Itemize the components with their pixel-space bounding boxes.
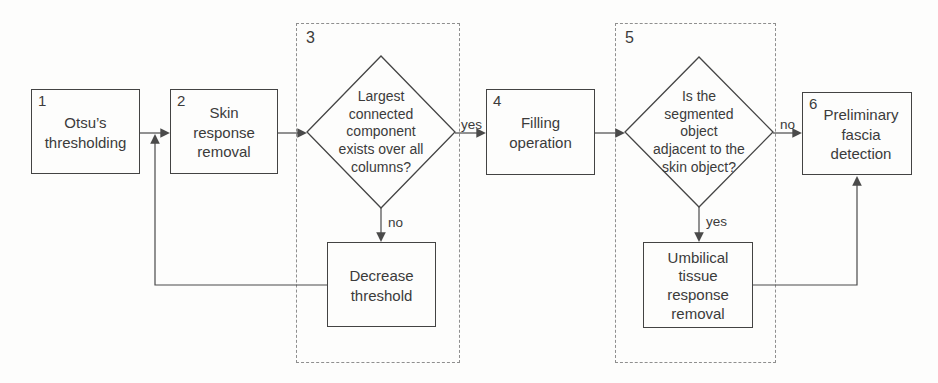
- decision3-yes-label: yes: [461, 117, 482, 132]
- node-2-number: 2: [177, 92, 185, 109]
- node-4-number: 4: [493, 92, 501, 109]
- node-1-number: 1: [38, 92, 46, 109]
- decision3-no-label: no: [388, 215, 403, 230]
- node-umbilical-tissue-response-removal: Umbilical tissue response removal: [643, 242, 753, 328]
- node-otsus-thresholding: 1 Otsu’s thresholding: [31, 89, 140, 174]
- node-1-label: Otsu’s thresholding: [45, 111, 127, 153]
- connector-layer: [0, 0, 938, 383]
- node-4-label: Filling operation: [509, 111, 572, 153]
- decision5-no-label: no: [780, 117, 795, 132]
- node-umbilical-label: Umbilical tissue response removal: [667, 247, 729, 324]
- edge-action5-to-step6: [753, 178, 857, 285]
- node-preliminary-fascia-detection: 6 Preliminary fascia detection: [802, 92, 912, 175]
- node-6-label: Preliminary fascia detection: [815, 103, 898, 164]
- node-2-label: Skin response removal: [193, 101, 255, 162]
- decision3-label: Largest connected component exists over …: [311, 88, 451, 176]
- node-filling-operation: 4 Filling operation: [486, 89, 595, 175]
- node-decrease-threshold-label: Decrease threshold: [349, 264, 413, 306]
- node-6-number: 6: [809, 95, 817, 112]
- decision5-label: Is the segmented object adjacent to the …: [629, 88, 769, 176]
- decision5-yes-label: yes: [706, 214, 727, 229]
- flowchart-canvas: 3 5 1 Otsu’s thresholding 2 Skin respons…: [0, 0, 938, 383]
- node-decrease-threshold: Decrease threshold: [327, 242, 436, 327]
- node-skin-response-removal: 2 Skin response removal: [170, 89, 278, 174]
